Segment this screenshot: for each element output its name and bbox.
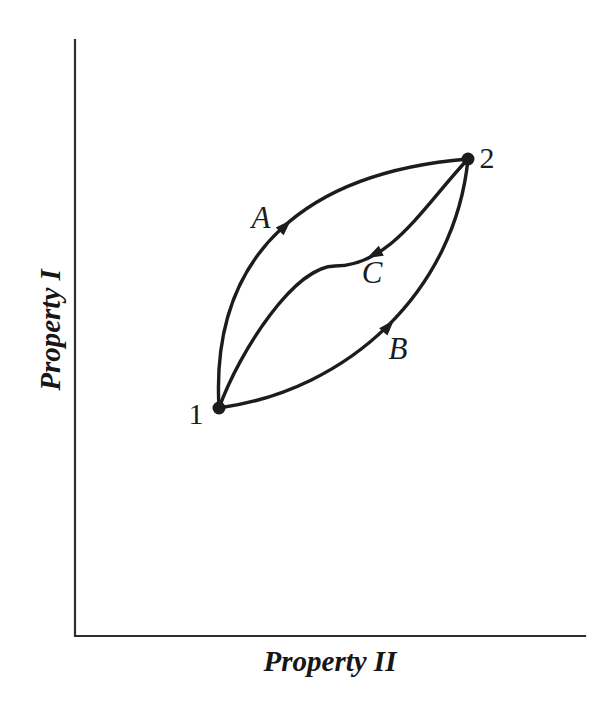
process-label-B: B [389,331,408,366]
y-axis-label: Property I [34,267,66,391]
process-label-C: C [362,255,383,290]
state-label-2: 2 [480,141,495,174]
process-label-A: A [250,200,272,235]
process-path-C [219,159,468,408]
figure-page: A B C 1 2 Property I Property II [0,0,611,702]
state-point-1 [213,402,226,415]
process-path-A [218,159,468,408]
process-path-B [219,159,468,408]
property-diagram: A B C 1 2 Property I Property II [0,0,611,702]
state-point-2 [462,153,475,166]
x-axis-label: Property II [263,645,399,677]
axes-frame [75,40,585,636]
state-label-1: 1 [189,397,204,430]
